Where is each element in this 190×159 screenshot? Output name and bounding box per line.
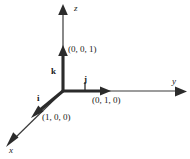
i-vector-shaft [40,91,63,110]
i-point-label: (1, 0, 0) [42,113,71,122]
z-axis-arrowhead-icon [58,4,68,15]
k-vector-arrowhead-icon [58,45,68,56]
k-point-label: (0, 0, 1) [68,45,97,54]
x-axis-label: x [9,146,13,155]
y-axis-arrowhead-icon [175,87,187,97]
j-point-label: (0, 1, 0) [92,96,121,105]
axes-vectors-svg [0,0,190,159]
k-vector-label: k [51,67,56,76]
z-axis-label: z [74,4,78,13]
vector-diagram-figure: z y x k (0, 0, 1) j (0, 1, 0) i (1, 0, 0… [0,0,190,159]
i-vector-label: i [37,94,40,103]
j-vector-label: j [84,75,87,84]
y-axis-label: y [172,77,176,86]
